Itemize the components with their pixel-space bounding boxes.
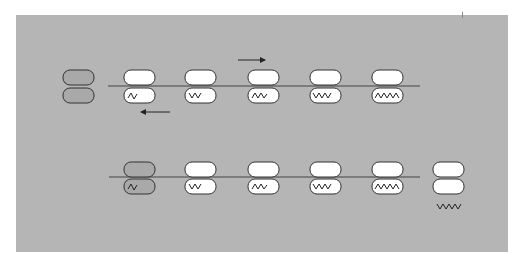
ribosome-bottom-1	[124, 162, 155, 194]
ribosome-bottom-4	[310, 162, 341, 194]
released-ribosome	[433, 162, 464, 194]
ribosome-bottom-5	[372, 162, 403, 194]
released-peptide	[437, 204, 461, 209]
ribosome-bottom-2	[185, 162, 216, 194]
ribosome-bottom-3	[248, 162, 279, 194]
free-ribosome	[63, 70, 94, 103]
polysome-diagram	[0, 0, 527, 267]
